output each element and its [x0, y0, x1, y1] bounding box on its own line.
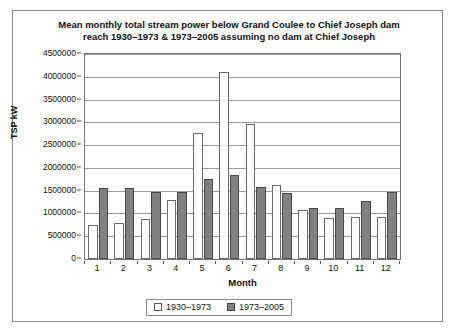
x-axis-labels: 123456789101112 [84, 261, 401, 277]
y-tick-mark [77, 121, 81, 122]
x-tick-label: 10 [328, 263, 338, 273]
bar-group [243, 54, 269, 259]
y-tick-label: 500000 [48, 230, 76, 240]
y-tick-mark [77, 98, 81, 99]
x-tick-mark [189, 261, 190, 264]
bar-group [348, 54, 374, 259]
y-axis-labels: 0500000100000015000002000000250000030000… [13, 53, 81, 260]
x-tick-label: 2 [121, 263, 126, 273]
x-tick-mark [163, 261, 164, 264]
bar-series-a-month-8 [272, 185, 282, 259]
bar-series-a-month-11 [351, 217, 361, 259]
x-tick-mark [137, 261, 138, 264]
bar-series-a-month-12 [377, 217, 387, 259]
bar-series-a-month-1 [88, 225, 98, 259]
y-tick-label: 1500000 [43, 185, 76, 195]
legend-swatch-icon [227, 303, 235, 311]
bar-series-b-month-9 [309, 208, 319, 259]
bar-series-b-month-12 [387, 192, 397, 259]
bar-group [164, 54, 190, 259]
legend-entry[interactable]: 1930–1973 [154, 302, 211, 312]
bar-group [138, 54, 164, 259]
bar-series-b-month-11 [361, 201, 371, 259]
y-tick-label: 0 [71, 253, 76, 263]
x-tick-label: 3 [147, 263, 152, 273]
legend-label: 1930–1973 [166, 302, 211, 312]
y-tick-mark [77, 144, 81, 145]
y-tick-mark [77, 75, 81, 76]
x-tick-label: 6 [226, 263, 231, 273]
bar-series-a-month-10 [324, 218, 334, 259]
bar-series-b-month-1 [99, 188, 109, 259]
x-tick-mark [268, 261, 269, 264]
x-tick-label: 11 [355, 263, 364, 273]
bar-group [374, 54, 400, 259]
bar-series-a-month-9 [298, 210, 308, 259]
x-axis-title: Month [84, 277, 401, 288]
bar-series-a-month-4 [167, 200, 177, 259]
bar-series-b-month-3 [151, 192, 161, 259]
x-tick-mark [294, 261, 295, 264]
y-tick-mark [77, 53, 81, 54]
bar-series-b-month-4 [177, 192, 187, 259]
x-tick-mark [320, 261, 321, 264]
plot-area [84, 53, 401, 260]
bar-series-b-month-8 [282, 193, 292, 259]
bar-series-a-month-7 [246, 124, 256, 259]
x-tick-label: 12 [381, 263, 391, 273]
x-tick-label: 9 [305, 263, 310, 273]
x-tick-label: 1 [95, 263, 100, 273]
bar-series-a-month-5 [193, 133, 203, 259]
x-tick-label: 7 [252, 263, 257, 273]
x-tick-label: 4 [173, 263, 178, 273]
bar-series-b-month-2 [125, 188, 135, 259]
bar-group [321, 54, 347, 259]
bar-group [269, 54, 295, 259]
bar-series-b-month-7 [256, 187, 266, 259]
bar-group [216, 54, 242, 259]
y-tick-mark [77, 212, 81, 213]
x-tick-mark [373, 261, 374, 264]
bar-series-a-month-6 [219, 72, 229, 259]
x-tick-mark [215, 261, 216, 264]
y-tick-mark [77, 258, 81, 259]
legend-label: 1973–2005 [239, 302, 284, 312]
bar-group [295, 54, 321, 259]
x-tick-mark [84, 261, 85, 264]
x-tick-label: 5 [200, 263, 205, 273]
bar-group [190, 54, 216, 259]
y-tick-label: 2500000 [43, 139, 76, 149]
bar-series-a-month-2 [114, 223, 124, 259]
y-tick-label: 4000000 [43, 71, 76, 81]
y-tick-label: 3500000 [43, 94, 76, 104]
bar-series-b-month-10 [335, 208, 345, 259]
x-tick-label: 8 [278, 263, 283, 273]
bar-group [111, 54, 137, 259]
y-tick-label: 4500000 [43, 48, 76, 58]
bar-group [85, 54, 111, 259]
legend-swatch-icon [154, 303, 162, 311]
bar-series-a-month-3 [141, 219, 151, 259]
chart-title: Mean monthly total stream power below Gr… [43, 19, 415, 43]
chart-title-line-1: Mean monthly total stream power below Gr… [43, 19, 415, 31]
chart-title-line-2: reach 1930–1973 & 1973–2005 assuming no … [43, 31, 415, 43]
y-tick-label: 2000000 [43, 162, 76, 172]
x-tick-mark [347, 261, 348, 264]
y-tick-mark [77, 235, 81, 236]
x-tick-mark [110, 261, 111, 264]
y-tick-mark [77, 166, 81, 167]
legend-entry[interactable]: 1973–2005 [227, 302, 284, 312]
y-tick-mark [77, 189, 81, 190]
y-tick-label: 3000000 [43, 116, 76, 126]
x-tick-mark [399, 261, 400, 264]
chart-figure-frame: Mean monthly total stream power below Gr… [12, 10, 443, 322]
x-tick-mark [242, 261, 243, 264]
y-tick-label: 1000000 [43, 207, 76, 217]
bar-series-b-month-6 [230, 175, 240, 259]
bar-series-b-month-5 [204, 179, 214, 259]
chart-legend: 1930–19731973–2005 [146, 299, 292, 316]
